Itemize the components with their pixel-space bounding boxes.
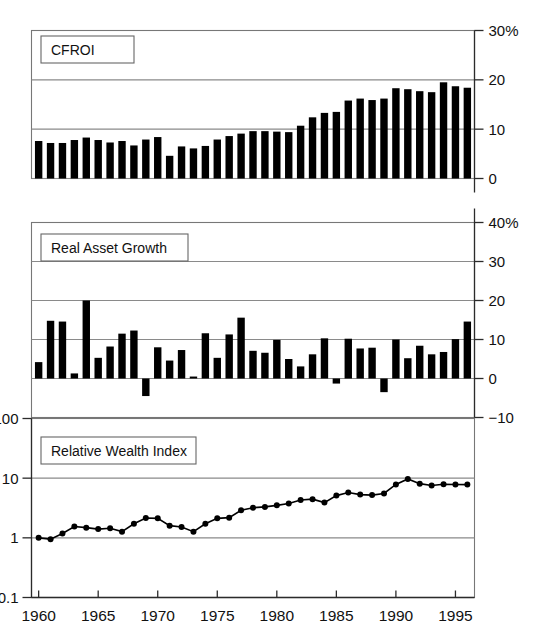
cfroi-bar bbox=[380, 99, 387, 179]
rag-bar bbox=[71, 373, 78, 378]
rwi-marker bbox=[262, 504, 268, 510]
cfroi-y-30-label: 30% bbox=[489, 22, 519, 39]
cfroi-bar bbox=[249, 131, 256, 178]
rag-bar bbox=[368, 348, 375, 379]
rag-bar bbox=[237, 318, 244, 379]
cfroi-bar bbox=[321, 113, 328, 179]
rwi-marker bbox=[310, 496, 316, 502]
cfroi-bar bbox=[94, 140, 101, 178]
rag-y-10-label: 10 bbox=[489, 331, 506, 348]
x-tick-label-1995: 1995 bbox=[438, 607, 472, 624]
rwi-marker bbox=[298, 497, 304, 503]
x-tick-label-1975: 1975 bbox=[200, 607, 234, 624]
cfroi-bar bbox=[273, 132, 280, 179]
rwi-marker bbox=[333, 493, 339, 499]
x-tick-label-1990: 1990 bbox=[379, 607, 414, 624]
cfroi-bar bbox=[59, 143, 66, 179]
cfroi-title-box: CFROI bbox=[41, 36, 134, 63]
cfroi-bar bbox=[214, 140, 221, 179]
cfroi-bar bbox=[47, 143, 54, 179]
cfroi-bar bbox=[118, 141, 125, 178]
cfroi-bar bbox=[190, 148, 197, 178]
rwi-marker bbox=[345, 490, 351, 496]
rag-bar bbox=[178, 350, 185, 378]
cfroi-bar bbox=[368, 100, 375, 178]
rag-bar bbox=[380, 379, 387, 393]
rwi-marker bbox=[452, 481, 458, 487]
rag-bar bbox=[94, 358, 101, 379]
cfroi-bar bbox=[154, 137, 161, 178]
rwi-marker bbox=[286, 501, 292, 507]
x-tick-label-1965: 1965 bbox=[81, 607, 115, 624]
cfroi-bar bbox=[333, 112, 340, 179]
rag-bar bbox=[464, 322, 471, 379]
cfroi-bar bbox=[142, 140, 149, 179]
rag-y--10-label: −10 bbox=[489, 409, 514, 426]
rag-bar bbox=[202, 333, 209, 378]
rag-bar bbox=[261, 353, 268, 379]
rag-y-20-label: 20 bbox=[489, 292, 506, 309]
cfroi-bar bbox=[440, 82, 447, 178]
rwi-marker bbox=[107, 525, 113, 531]
rwi-marker bbox=[59, 531, 65, 537]
rag-bar bbox=[273, 340, 280, 379]
rag-bar bbox=[345, 339, 352, 379]
rwi-marker bbox=[71, 523, 77, 529]
cfroi-bar bbox=[345, 101, 352, 179]
cfroi-bar bbox=[356, 99, 363, 179]
rag-bar bbox=[166, 361, 173, 379]
cfroi-bar bbox=[416, 91, 423, 178]
x-tick-label-1970: 1970 bbox=[140, 607, 175, 624]
rag-bar bbox=[452, 339, 459, 378]
cfroi-bar bbox=[178, 146, 185, 178]
rag-bar bbox=[309, 354, 316, 378]
figure-canvas: 0102030% CFROI −10010203040% Real Asset … bbox=[0, 0, 534, 638]
rag-bar bbox=[416, 346, 423, 379]
cfroi-title-text: CFROI bbox=[51, 42, 95, 58]
rwi-marker bbox=[95, 526, 101, 532]
cfroi-bar bbox=[35, 141, 42, 178]
cfroi-y-0-label: 0 bbox=[489, 170, 497, 187]
cfroi-bar bbox=[261, 131, 268, 178]
rwi-y-100-label: 100 bbox=[0, 410, 19, 427]
rwi-marker bbox=[357, 492, 363, 498]
x-tick-label-1985: 1985 bbox=[319, 607, 353, 624]
cfroi-bar bbox=[225, 136, 232, 178]
rwi-marker bbox=[202, 521, 208, 527]
rag-title-box: Real Asset Growth bbox=[41, 234, 188, 261]
cfroi-bar bbox=[392, 88, 399, 178]
rwi-marker bbox=[179, 524, 185, 530]
cfroi-bar bbox=[83, 138, 90, 179]
rag-bar bbox=[285, 359, 292, 379]
rag-bar bbox=[440, 352, 447, 379]
cfroi-bar bbox=[106, 142, 113, 178]
rag-bar bbox=[225, 334, 232, 378]
rwi-marker bbox=[36, 535, 42, 541]
rag-bar bbox=[297, 366, 304, 378]
rag-bar bbox=[428, 354, 435, 378]
rag-bar bbox=[392, 340, 399, 379]
rag-y-30-label: 30 bbox=[489, 253, 506, 270]
rag-bar bbox=[59, 322, 66, 379]
cfroi-bar bbox=[464, 88, 471, 179]
rwi-marker bbox=[119, 529, 125, 535]
cfroi-bar bbox=[237, 134, 244, 179]
rwi-marker bbox=[143, 515, 149, 521]
cfroi-bar bbox=[285, 132, 292, 178]
rwi-marker bbox=[405, 476, 411, 482]
rag-y-0-label: 0 bbox=[489, 370, 497, 387]
rwi-marker bbox=[167, 523, 173, 529]
rwi-y-10-label: 10 bbox=[2, 470, 19, 487]
cfroi-bar bbox=[166, 156, 173, 179]
rag-bar bbox=[249, 351, 256, 379]
rag-title-text: Real Asset Growth bbox=[51, 240, 167, 256]
rwi-marker bbox=[238, 507, 244, 513]
rwi-marker bbox=[417, 481, 423, 487]
rag-bar bbox=[106, 347, 113, 379]
cfroi-y-10-label: 10 bbox=[489, 121, 506, 138]
rwi-title-box: Relative Wealth Index bbox=[41, 437, 196, 464]
rwi-marker bbox=[83, 525, 89, 531]
rag-bar bbox=[154, 347, 161, 378]
cfroi-bar bbox=[452, 86, 459, 178]
rwi-marker bbox=[381, 490, 387, 496]
